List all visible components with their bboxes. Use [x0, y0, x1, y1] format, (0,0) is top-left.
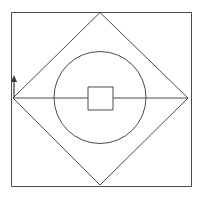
center-zigzag-lower	[88, 98, 113, 110]
center-zigzag-upper	[88, 87, 113, 98]
inscribed-diamond	[13, 13, 188, 186]
geometric-figure-canvas: Geometric line drawing Outer square cont…	[0, 0, 201, 201]
outer-square	[12, 13, 192, 187]
